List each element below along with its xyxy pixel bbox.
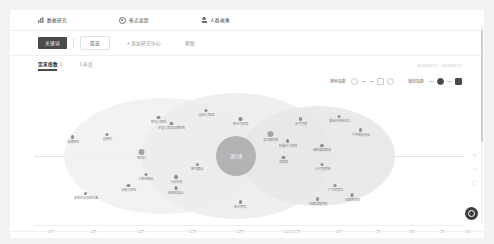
chart-point[interactable]: 无糖茶饮料 [345, 193, 360, 202]
chart-point[interactable]: 新风口 [137, 149, 146, 160]
circle-outline-icon[interactable] [351, 78, 358, 85]
point-label: 小户型家电 [315, 167, 330, 171]
add-research-center-button[interactable]: + 添加研究中心 [120, 37, 168, 49]
point-label: 预制菜 [279, 160, 288, 164]
help-button[interactable]: 帮助 [178, 37, 202, 49]
chart-point[interactable]: 新中式风格 [233, 117, 248, 126]
chart-point[interactable]: 预制菜 [279, 156, 288, 165]
point-label: 露营经济新风口 [329, 119, 350, 123]
point-dot [239, 200, 242, 203]
bubble-chart[interactable]: 品牌联名国潮化联名小家电IP定义美妆品牌联名国风小家电新中式风格新风口数字藏品小… [34, 87, 464, 225]
point-label: 定制化冰淇淋礼盒 [74, 196, 98, 200]
point-label: 户外家居用品 [352, 133, 370, 137]
point-dot [316, 197, 319, 200]
side-action-rail: ⋖ ☆ ▢ [471, 152, 478, 187]
point-dot [320, 163, 323, 166]
record-fab[interactable] [465, 207, 478, 220]
circle-filled-icon[interactable] [437, 78, 444, 85]
chart-point[interactable]: 低糖低脂烘焙 [309, 197, 327, 206]
chart-point[interactable]: 户外家居用品 [352, 128, 370, 137]
divider [73, 38, 74, 48]
date-range-label: 2022/05/17 ~ 2022/07/17 [417, 63, 462, 68]
chart-point[interactable]: 小户型家电 [315, 163, 330, 172]
tab-demand-index[interactable]: 需求指数 ① [38, 61, 63, 71]
point-dot [105, 133, 108, 136]
point-dot [71, 135, 74, 138]
point-label: 广式轻奢风 [328, 188, 343, 192]
chart-point[interactable]: 轻量化小家电 [279, 139, 297, 148]
filter-bar: 关键词 筛选 + 添加研究中心 帮助 [10, 31, 484, 56]
chart-point[interactable]: 元气宅家 [295, 117, 307, 126]
person-icon [201, 17, 207, 23]
chart-point[interactable]: 品牌联名 [67, 135, 79, 144]
dash-icon[interactable] [361, 81, 366, 82]
chart-point[interactable]: IP定义美妆品牌联名 [158, 122, 185, 131]
record-icon [468, 210, 475, 217]
media-index-controls: 媒体指数 [408, 78, 462, 85]
nav-item-label: 数据研究 [47, 17, 67, 23]
point-dot [299, 117, 302, 120]
point-label: 品牌联名 [67, 140, 79, 144]
chart-toolbar: 搜索指数 媒体指数 [10, 75, 484, 87]
nav-item-data-research[interactable]: 数据研究 [38, 17, 67, 23]
tab-label: 1 热度 [79, 62, 93, 67]
chart-point[interactable]: 广式轻奢风 [328, 184, 343, 193]
chart-point[interactable]: 新式茶饮 [234, 200, 246, 209]
scrollbar-thumb[interactable] [481, 30, 484, 142]
tab-sublabel: ① [59, 62, 63, 67]
nav-item-audience-profile[interactable]: 人群画像 [201, 17, 230, 23]
keyword-segment-button[interactable]: 关键词 [38, 37, 67, 49]
circle-outline-icon[interactable] [387, 78, 394, 85]
tab-bar: 需求指数 ① 1 热度 2022/05/17 ~ 2022/07/17 [10, 56, 484, 75]
chart-point[interactable]: 国风小家电 [199, 109, 214, 118]
search-index-controls: 搜索指数 [330, 78, 394, 85]
chart-point[interactable]: 多巴胺穿搭 [263, 131, 278, 142]
point-dot [350, 193, 353, 196]
chart-point[interactable]: 几何主题 [170, 175, 182, 184]
square-filled-icon[interactable] [455, 78, 462, 85]
nav-item-label: 人群画像 [210, 17, 230, 23]
dash-icon[interactable] [429, 81, 434, 82]
center-bubble[interactable]: 流行语 [216, 136, 256, 176]
chart-point[interactable]: 数字藏品 [191, 163, 203, 172]
star-icon[interactable]: ☆ [471, 166, 478, 173]
point-label: 小家电新品 [138, 177, 153, 181]
point-dot [139, 149, 145, 155]
square-outline-icon[interactable] [377, 78, 384, 85]
page-bottom-strip [10, 231, 484, 238]
nav-item-hotspot-tracking[interactable]: 热点追踪 [119, 17, 149, 24]
chart-point[interactable]: 小家电新品 [138, 173, 153, 182]
dash-icon[interactable] [447, 81, 452, 82]
point-dot [239, 117, 242, 120]
chart-point[interactable]: 露营经济新风口 [329, 115, 350, 124]
chart-point[interactable]: 冰皮小家电 [121, 184, 136, 193]
comment-icon[interactable]: ▢ [471, 180, 478, 187]
point-label: 国潮化 [103, 137, 112, 141]
point-dot [286, 139, 289, 142]
chart-point[interactable]: 精致露营器具 [313, 144, 331, 153]
point-dot [84, 192, 87, 195]
chart-ring [240, 106, 395, 205]
chart-point[interactable]: 定制化冰淇淋礼盒 [74, 192, 98, 201]
point-dot [320, 144, 323, 147]
share-icon[interactable]: ⋖ [471, 152, 478, 159]
media-index-label: 媒体指数 [408, 78, 424, 84]
point-dot [127, 184, 130, 187]
vertical-scrollbar[interactable] [481, 24, 484, 224]
point-label: 精致露营器具 [313, 148, 331, 152]
point-label: 国风小家电 [199, 113, 214, 117]
dash-icon[interactable] [369, 81, 374, 82]
point-label: 几何主题 [170, 180, 182, 184]
chart-icon [38, 17, 44, 23]
chart-point[interactable]: 新概念食品 [168, 186, 183, 195]
point-dot [174, 186, 177, 189]
point-label: 新中式风格 [233, 122, 248, 126]
point-dot [338, 115, 341, 118]
filter-select[interactable]: 筛选 [80, 36, 110, 50]
point-label: 元气宅家 [295, 122, 307, 126]
point-label: 轻量化小家电 [279, 144, 297, 148]
tab-heat[interactable]: 1 热度 [79, 61, 93, 71]
chart-point[interactable]: 国潮化 [103, 133, 112, 142]
point-dot [174, 175, 177, 178]
app-window: 数据研究 热点追踪 人群画像 关键词 筛选 + 添加研究中心 帮助 需求指数 ①… [10, 10, 484, 238]
